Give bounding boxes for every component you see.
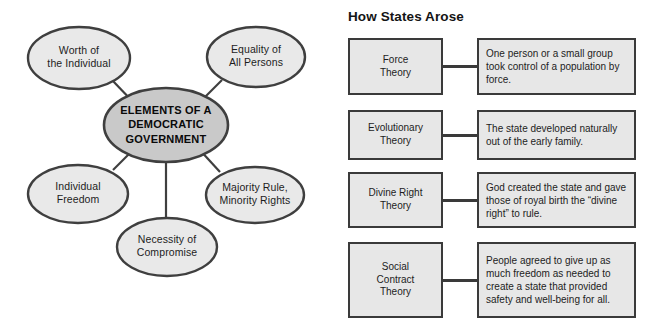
- theory-name-box: Evolutionary Theory: [348, 110, 443, 160]
- theory-row: Social Contract Theory People agreed to …: [348, 242, 636, 318]
- theory-row: Divine Right Theory God created the stat…: [348, 172, 636, 228]
- row-connector-line: [443, 65, 477, 68]
- concept-map-graphic: [0, 0, 330, 334]
- theory-description-label: The state developed naturally out of the…: [486, 122, 627, 148]
- row-connector-line: [443, 279, 477, 282]
- node-center-elements-of-a-democratic-government: [104, 88, 228, 162]
- theory-description-box: People agreed to give up as much freedom…: [477, 242, 636, 318]
- theory-name-box: Social Contract Theory: [348, 242, 443, 318]
- theory-description-label: God created the state and gave those of …: [486, 181, 627, 220]
- democratic-government-concept-map: Worth of the Individual Equality of All …: [0, 0, 330, 334]
- row-connector-line: [443, 134, 477, 137]
- theory-description-box: God created the state and gave those of …: [477, 172, 636, 228]
- how-states-arose-panel: How States Arose Force Theory One person…: [330, 0, 652, 334]
- theory-description-box: The state developed naturally out of the…: [477, 110, 636, 160]
- node-necessity-of-compromise: [117, 218, 217, 276]
- node-equality-of-all-persons: [207, 27, 305, 87]
- theory-name-box: Divine Right Theory: [348, 172, 443, 228]
- theory-description-box: One person or a small group took control…: [477, 38, 636, 95]
- theory-row: Force Theory One person or a small group…: [348, 38, 636, 95]
- states-panel-heading: How States Arose: [348, 9, 464, 24]
- theory-name-label: Force Theory: [380, 54, 411, 80]
- theory-row: Evolutionary Theory The state developed …: [348, 110, 636, 160]
- theory-description-label: People agreed to give up as much freedom…: [486, 254, 627, 306]
- node-individual-freedom: [28, 165, 128, 223]
- theory-name-box: Force Theory: [348, 38, 443, 95]
- theory-name-label: Divine Right Theory: [369, 187, 423, 213]
- theory-name-label: Social Contract Theory: [377, 261, 415, 299]
- theory-description-label: One person or a small group took control…: [486, 47, 627, 86]
- node-worth-of-the-individual: [28, 27, 130, 89]
- theory-name-label: Evolutionary Theory: [368, 122, 423, 148]
- node-majority-rule-minority-rights: [206, 167, 304, 223]
- row-connector-line: [443, 199, 477, 202]
